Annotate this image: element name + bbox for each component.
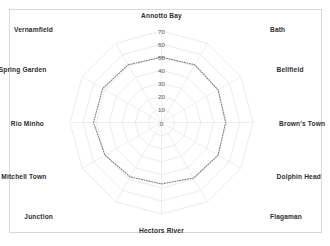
- radial-tick-label: 30: [158, 80, 165, 87]
- radial-tick-label: 60: [158, 41, 165, 48]
- category-label-junction: Junction: [24, 212, 53, 219]
- radial-tick-label: 0: [160, 119, 164, 126]
- category-label-flagaman: Flagaman: [270, 212, 302, 219]
- radial-tick-label: 40: [158, 67, 165, 74]
- radial-tick-label: 10: [158, 106, 165, 113]
- radial-tick-label: 20: [158, 93, 165, 100]
- category-label-hectors-river: Hectors River: [139, 227, 184, 234]
- radial-tick-label: 70: [158, 28, 165, 35]
- category-label-brown-s-town: Brown's Town: [279, 119, 325, 126]
- category-label-dolphin-head: Dolphin Head: [277, 173, 321, 180]
- radial-tick-label: 50: [158, 54, 165, 61]
- category-label-bellfield: Bellfield: [277, 65, 304, 72]
- category-label-rio-minho: Rio Minho: [11, 119, 44, 126]
- category-label-annotto-bay: Annotto Bay: [141, 12, 182, 19]
- category-label-spring-garden: Spring Garden: [0, 65, 46, 72]
- category-label-mitchell-town: Mitchell Town: [1, 173, 46, 180]
- category-label-vernamfield: Vernamfield: [14, 26, 53, 33]
- category-label-bath: Bath: [270, 26, 285, 33]
